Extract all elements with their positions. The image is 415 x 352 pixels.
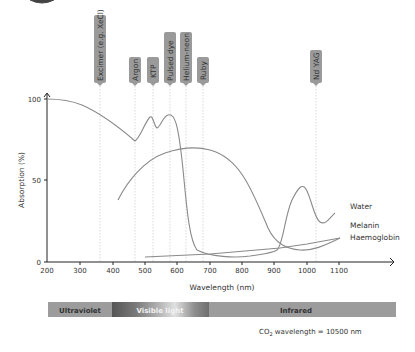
x-tick: 600 <box>170 267 183 275</box>
y-tick-labels: 100 50 0 <box>28 96 41 267</box>
x-tick: 300 <box>73 267 86 275</box>
laser-tag-excimer: Excimer (e.g. XeCl) <box>94 9 106 86</box>
y-axis-label: Absorption (%) <box>17 152 26 208</box>
co2-footnote: CO2 wavelength = 10500 nm <box>259 328 362 337</box>
axes <box>44 93 394 266</box>
series-labels: Water Melanin Haemoglobin <box>350 202 400 242</box>
corner-decoration <box>30 0 54 3</box>
laser-tag-nd-yag: Nd YAG <box>310 50 322 86</box>
laser-tags: Excimer (e.g. XeCl) Argon KTP Pulsed dye… <box>94 9 322 86</box>
legend-water: Water <box>350 202 373 211</box>
spectrum-bar: Ultraviolet Visible light Infrared <box>48 302 396 317</box>
laser-tag-pulsed-dye: Pulsed dye <box>164 32 176 86</box>
x-tick: 900 <box>267 267 280 275</box>
laser-label: Excimer (e.g. XeCl) <box>96 9 105 81</box>
x-tick: 700 <box>203 267 216 275</box>
x-tick: 800 <box>235 267 248 275</box>
water-curve <box>47 99 335 257</box>
x-tick: 200 <box>40 267 53 275</box>
laser-guide-lines <box>100 86 316 262</box>
laser-label: Nd YAG <box>312 52 321 80</box>
absorption-chart: Excimer (e.g. XeCl) Argon KTP Pulsed dye… <box>0 0 415 352</box>
laser-tag-argon: Argon <box>129 57 141 86</box>
y-tick: 100 <box>28 96 41 104</box>
laser-tag-helium-neon: Helium-neon <box>180 32 192 86</box>
laser-tag-ruby: Ruby <box>197 57 209 86</box>
x-tick: 500 <box>138 267 151 275</box>
y-tick: 0 <box>37 259 41 267</box>
x-tick-labels: 200 300 400 500 600 700 800 900 1000 110… <box>40 267 348 275</box>
band-label-infrared: Infrared <box>280 307 312 315</box>
band-label-visible: Visible light <box>137 307 185 315</box>
legend-melanin: Melanin <box>350 221 380 230</box>
laser-label: Pulsed dye <box>166 40 175 81</box>
laser-label: Argon <box>131 59 140 81</box>
x-tick: 1100 <box>330 267 348 275</box>
laser-tag-ktp: KTP <box>147 57 159 86</box>
haemoglobin-curve <box>145 238 340 257</box>
legend-haemoglobin: Haemoglobin <box>350 233 400 242</box>
laser-label: KTP <box>149 64 158 78</box>
laser-label: Helium-neon <box>182 33 191 81</box>
x-axis-label: Wavelength (nm) <box>190 283 255 292</box>
x-tick: 1000 <box>298 267 316 275</box>
laser-label: Ruby <box>199 61 208 80</box>
melanin-curve <box>118 148 340 250</box>
band-label-ultraviolet: Ultraviolet <box>59 307 102 315</box>
x-tick: 400 <box>106 267 119 275</box>
y-tick: 50 <box>32 177 41 185</box>
